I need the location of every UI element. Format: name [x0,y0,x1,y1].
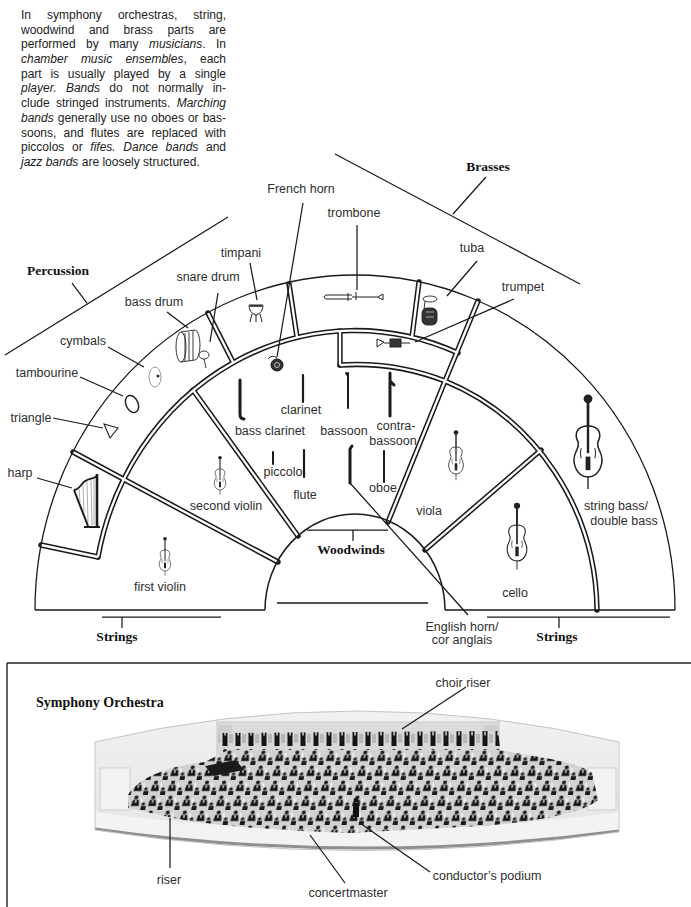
contrabassoon-icon [390,373,394,416]
label-piccolo: piccolo [264,465,303,479]
intro-term: jazz bands [21,155,78,169]
section-label-strings-left: Strings [96,629,137,645]
label-trombone: trombone [328,206,381,220]
intro-text: performed by many [21,37,149,51]
intro-line: performed by many musicians. In [21,37,226,52]
section-label-woodwinds: Woodwinds [317,542,385,558]
section-label-brasses: Brasses [466,159,510,175]
label-conductors-podium: conductor’s podium [433,869,542,883]
label-cymbals: cymbals [60,334,106,348]
intro-text: woodwind and brass parts are [21,23,226,37]
label-cello: cello [502,586,528,600]
label-clarinet: clarinet [281,403,321,417]
intro-text: clude stringed instruments. [21,96,177,110]
first-violin-icon [159,537,170,576]
label-tuba: tuba [460,241,484,255]
intro-text: . In [202,37,226,51]
trumpet-icon [377,339,410,347]
intro-term: chamber music ensembles [21,52,183,66]
label-concertmaster: concertmaster [308,886,387,900]
intro-text: are loosely structured. [78,155,199,169]
woodwinds-bracket [307,530,388,541]
string-bass-inner-arc-fill [445,381,597,610]
second-violin-icon [214,456,225,495]
intro-text: part is usually played by a single [21,67,226,81]
bass-drum-pointer [167,312,188,328]
bass-clarinet-icon [240,380,244,419]
label-oboe: oboe [369,481,397,495]
label-choir-riser: choir riser [436,676,491,690]
bass-drum-icon [176,330,200,362]
label-contrabassoon-line1: contra- [377,419,416,433]
label-harp: harp [7,466,32,480]
intro-text: and [198,140,226,154]
label-flute: flute [293,488,317,502]
left-side-panel [100,768,130,810]
bassoon-icon [346,373,348,408]
intro-text: do not normally in- [100,81,226,95]
intro-text: , each [183,52,226,66]
timpani-pointer [250,263,257,300]
tambourine-icon [123,393,141,414]
tuba-pointer [447,261,477,296]
label-french-horn: French horn [267,182,334,196]
label-timpani: timpani [221,246,261,260]
triangle-icon [104,424,118,438]
cymbals-pointer [108,347,144,367]
intro-line: woodwind and brass parts are [21,23,226,38]
tuba-box-right-edge-fill [445,301,478,381]
label-viola: viola [416,504,442,518]
intro-term: bands [21,111,54,125]
intro-term: player. Bands [21,81,100,95]
trombone-icon [324,292,383,301]
english-horn-icon [350,446,352,483]
intro-term: fifes. Dance bands [90,140,198,154]
intro-line: piccolos or fifes. Dance bands and [21,140,226,155]
woodwind-viola-divider-fill [388,381,445,522]
label-riser: riser [157,873,181,887]
intro-text: In symphony orchestras, string, [21,8,226,22]
timpani-trombone-divider-fill [289,284,297,337]
triangle-pointer [53,418,103,428]
intro-line: bands generally use no oboes or bas- [21,111,226,126]
intro-text: piccolos or [21,140,90,154]
label-english-horn-line2: cor anglais [432,633,492,647]
label-snare-drum: snare drum [176,270,239,284]
string-bass-icon [574,394,602,489]
label-bassoon: bassoon [320,424,367,438]
label-trumpet: trumpet [502,280,544,294]
harp-icon [74,474,100,527]
french-horn-icon [268,356,283,371]
tuba-icon [422,296,437,325]
intro-paragraph: In symphony orchestras, string, woodwind… [21,8,226,170]
timpani-icon [249,305,263,322]
intro-line: soons, and flutes are replaced with [21,126,226,141]
intro-line: part is usually played by a single [21,67,226,82]
intro-line: jazz bands are loosely structured. [21,155,226,170]
intro-line: In symphony orchestras, string, [21,8,226,23]
intro-text: soons, and flutes are replaced with [21,126,226,140]
conductor [353,798,359,817]
snare-drum-icon [199,351,209,368]
label-first-violin: first violin [134,580,186,594]
cello-icon [507,503,527,570]
intro-text: generally use no oboes or bas- [54,111,226,125]
section-label-percussion: Percussion [27,263,89,279]
strings-left-bracket [102,617,221,628]
percussion-timpani-divider-fill [208,313,233,362]
label-contrabassoon-line2: bassoon [369,434,416,448]
strings-right-bracket [487,617,670,628]
orchestra-photo [95,680,619,870]
label-second-violin: second violin [190,499,262,513]
panel-title: Symphony Orchestra [36,694,164,712]
label-string-bass-line2: double bass [590,514,657,528]
section-label-strings-right: Strings [536,629,577,645]
harp-box-bottom-fill [41,545,98,557]
intro-term: Marching [177,96,226,110]
label-bass-drum: bass drum [125,295,183,309]
label-triangle: triangle [11,411,52,425]
intro-line: chamber music ensembles, each [21,52,226,67]
intro-line: clude stringed instruments. Marching [21,96,226,111]
intro-line: player. Bands do not normally in- [21,81,226,96]
string-bass-inner-arc [445,381,597,610]
